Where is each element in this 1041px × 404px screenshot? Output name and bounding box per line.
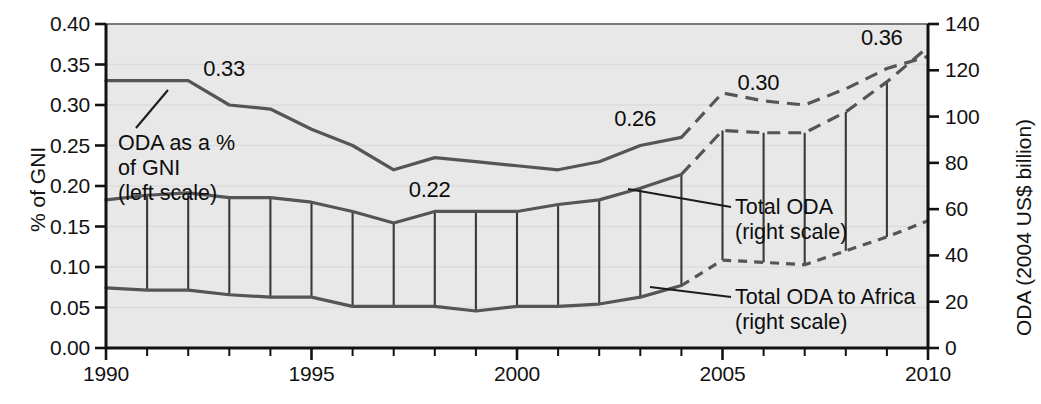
data-label-0-22: 0.22: [409, 177, 451, 203]
total-oda-annotation: Total ODA (right scale): [735, 195, 847, 245]
chart-figure: 0.000.050.100.150.200.250.300.350.40 020…: [0, 0, 1041, 404]
y-axis-right-tick-40: 40: [945, 243, 968, 267]
y-axis-left-tick-0.00: 0.00: [0, 336, 90, 360]
gni-annotation-line-1: ODA as a %: [118, 131, 235, 156]
data-label-0-26: 0.26: [614, 106, 656, 132]
africa-oda-annotation-line-2: (right scale): [735, 310, 915, 335]
data-label-0-36: 0.36: [861, 25, 903, 51]
y-axis-left-tick-0.30: 0.30: [0, 93, 90, 117]
y-axis-right-title: ODA (2004 US$ billion): [1012, 119, 1036, 336]
gni-annotation-line-3: (left scale): [118, 181, 235, 206]
gni-series-annotation: ODA as a % of GNI (left scale): [118, 131, 235, 206]
y-axis-right-tick-120: 120: [945, 58, 979, 82]
gni-annotation-line-2: of GNI: [118, 156, 235, 181]
x-axis-tick-2010: 2010: [873, 362, 983, 386]
y-axis-right-tick-80: 80: [945, 151, 968, 175]
x-axis-tick-2005: 2005: [668, 362, 778, 386]
y-axis-right-tick-100: 100: [945, 105, 979, 129]
africa-oda-annotation-line-1: Total ODA to Africa: [735, 285, 915, 310]
y-axis-left-tick-0.35: 0.35: [0, 53, 90, 77]
x-axis-tick-1990: 1990: [51, 362, 161, 386]
africa-oda-annotation: Total ODA to Africa (right scale): [735, 285, 915, 335]
data-label-0-30: 0.30: [738, 70, 780, 96]
y-axis-left-tick-0.05: 0.05: [0, 296, 90, 320]
y-axis-right-tick-140: 140: [945, 12, 979, 36]
y-axis-right-tick-0: 0: [945, 336, 956, 360]
y-axis-right-tick-20: 20: [945, 290, 968, 314]
x-axis-tick-2000: 2000: [462, 362, 572, 386]
data-label-0-33: 0.33: [203, 56, 245, 82]
y-axis-left-tick-0.10: 0.10: [0, 255, 90, 279]
total-oda-annotation-line-1: Total ODA: [735, 195, 847, 220]
y-axis-left-title: % of GNI: [26, 147, 50, 232]
y-axis-right-tick-60: 60: [945, 197, 968, 221]
y-axis-left-tick-0.40: 0.40: [0, 12, 90, 36]
x-axis-tick-1995: 1995: [257, 362, 367, 386]
total-oda-annotation-line-2: (right scale): [735, 220, 847, 245]
